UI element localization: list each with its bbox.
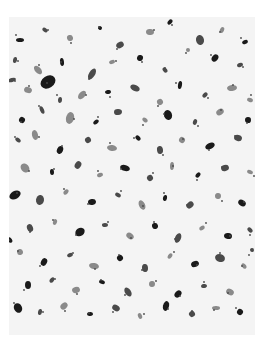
- particle: [25, 281, 31, 289]
- particle: [16, 38, 24, 42]
- micrograph-image: [9, 17, 255, 335]
- particle-texture: [9, 17, 255, 335]
